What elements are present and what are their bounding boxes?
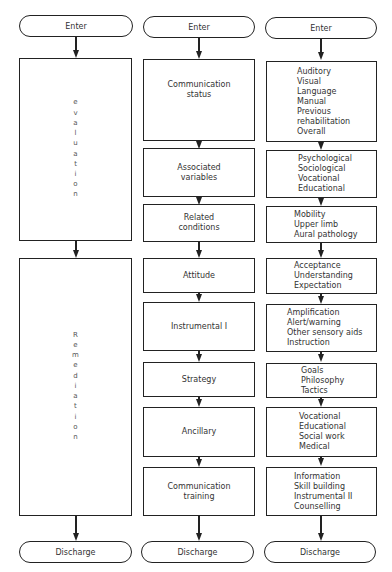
enter-node-col2: Enter [143, 16, 255, 38]
box-line: rehabilitation [297, 117, 350, 127]
associated-variables-box: Associatedvariables [143, 148, 255, 197]
box-line: Medical [299, 442, 346, 452]
letter: t [74, 401, 77, 411]
attitude-box: Attitude [143, 258, 255, 293]
box-line: Alert/warning [287, 318, 362, 328]
discharge-label: Discharge [55, 548, 95, 557]
evaluation-phase-box: e v a l u a t i o n [19, 58, 132, 241]
box-line: Manual [297, 97, 350, 107]
strategy-details-box: Goals Philosophy Tactics [266, 363, 377, 398]
letter: i [75, 169, 77, 179]
box-line: Language [297, 87, 350, 97]
enter-label: Enter [65, 22, 86, 31]
discharge-node-col2: Discharge [141, 541, 254, 563]
evaluation-vertical-label: e v a l u a t i o n [73, 97, 77, 199]
letter: l [75, 128, 77, 138]
box-line: Vocational [299, 412, 346, 422]
discharge-node-col1: Discharge [19, 541, 132, 563]
box-line: Visual [297, 77, 350, 87]
ancillary-details-box: Vocational Educational Social work Medic… [266, 407, 377, 457]
box-line: Social work [299, 432, 346, 442]
box-line: Auditory [297, 67, 350, 77]
box-line: conditions [178, 223, 219, 233]
related-conditions-details-box: Mobility Upper limb Aural pathology [266, 206, 377, 243]
letter: n [73, 189, 77, 199]
enter-label: Enter [310, 24, 331, 33]
box-line: Strategy [182, 375, 216, 385]
box-line: Information [294, 472, 352, 482]
box-line: Expectation [294, 281, 353, 291]
box-line: Instruction [287, 338, 362, 348]
box-line: Mobility [294, 210, 358, 220]
enter-node-col1: Enter [19, 15, 133, 37]
remediation-phase-box: R e m e d i a t i o n [19, 258, 132, 516]
instrumental-1-box: Instrumental I [143, 302, 255, 351]
remediation-vertical-label: R e m e d i a t i o n [72, 330, 79, 442]
letter: e [73, 97, 77, 107]
discharge-label: Discharge [177, 548, 217, 557]
box-line: Vocational [298, 174, 352, 184]
associated-variables-details-box: Psychological Sociological Vocational Ed… [266, 150, 377, 198]
instrumental-details-box: Amplification Alert/warning Other sensor… [266, 304, 377, 352]
letter: i [75, 381, 77, 391]
letter: o [73, 422, 77, 432]
box-line: Amplification [287, 308, 362, 318]
box-line: Educational [298, 184, 352, 194]
communication-status-details-box: Auditory Visual Language Manual Previous… [266, 61, 377, 142]
attitude-details-box: Acceptance Understanding Expectation [266, 258, 377, 294]
box-line: Acceptance [294, 261, 353, 271]
letter: a [73, 391, 77, 401]
box-line: Counselling [294, 502, 352, 512]
letter: a [73, 118, 77, 128]
communication-status-box: Communicationstatus [143, 59, 255, 141]
enter-label: Enter [188, 23, 209, 32]
box-line: Communication [167, 80, 230, 90]
box-line: Previous [297, 107, 350, 117]
letter: e [73, 360, 77, 370]
box-line: Goals [301, 366, 344, 376]
box-line: Psychological [298, 154, 352, 164]
letter: e [73, 340, 77, 350]
box-line: Communication [167, 482, 230, 492]
strategy-box: Strategy [143, 362, 255, 397]
enter-node-col3: Enter [265, 17, 377, 39]
letter: a [73, 149, 77, 159]
communication-training-box: Communicationtraining [143, 467, 255, 516]
box-line: Skill building [294, 482, 352, 492]
related-conditions-box: Relatedconditions [143, 204, 255, 242]
box-line: Other sensory aids [287, 328, 362, 338]
box-line: status [187, 90, 212, 100]
box-line: training [184, 492, 215, 502]
box-line: Sociological [298, 164, 352, 174]
letter: u [73, 138, 77, 148]
box-line: Understanding [294, 271, 353, 281]
box-line: Related [184, 213, 214, 223]
discharge-node-col3: Discharge [264, 541, 376, 563]
letter: d [73, 371, 77, 381]
box-line: Instrumental II [294, 492, 352, 502]
box-line: Aural pathology [294, 230, 358, 240]
box-line: Instrumental I [171, 322, 227, 332]
box-line: Tactics [301, 386, 344, 396]
letter: t [74, 159, 77, 169]
letter: m [72, 350, 79, 360]
letter: v [73, 108, 77, 118]
letter: n [73, 432, 77, 442]
letter: R [73, 330, 78, 340]
ancillary-box: Ancillary [143, 407, 255, 457]
communication-training-details-box: Information Skill building Instrumental … [266, 467, 377, 516]
letter: o [73, 179, 77, 189]
box-line: variables [181, 173, 217, 183]
box-line: Associated [177, 163, 220, 173]
box-line: Upper limb [294, 220, 358, 230]
box-line: Philosophy [301, 376, 344, 386]
box-line: Ancillary [182, 427, 217, 437]
box-line: Overall [297, 127, 350, 137]
box-line: Attitude [183, 271, 215, 281]
discharge-label: Discharge [300, 548, 340, 557]
letter: i [75, 412, 77, 422]
box-line: Educational [299, 422, 346, 432]
